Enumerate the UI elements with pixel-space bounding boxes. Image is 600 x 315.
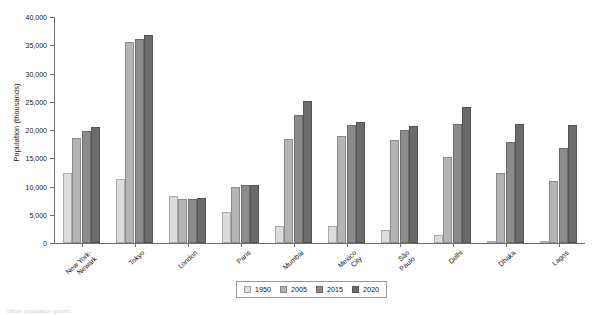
legend-swatch-icon [352, 286, 359, 293]
legend-label: 2005 [291, 285, 307, 294]
bar [462, 107, 471, 243]
chart-legend: 1950200520152020 [236, 281, 387, 298]
bar [356, 122, 365, 243]
bar-group [169, 17, 207, 243]
bar-group [222, 17, 260, 243]
x-tick-mark [559, 243, 560, 247]
bar [231, 187, 240, 243]
bar [294, 115, 303, 243]
bar [275, 226, 284, 243]
bar [568, 125, 577, 243]
bar [443, 157, 452, 243]
bar [82, 131, 91, 243]
legend-label: 2015 [327, 285, 343, 294]
bar-groups [55, 17, 585, 243]
x-tick-mark [188, 243, 189, 247]
y-tick-label: 5,000 [1, 211, 47, 218]
bar [337, 136, 346, 243]
bar [559, 148, 568, 243]
bar [400, 130, 409, 243]
x-axis-label: MexicoCity [300, 249, 363, 308]
bar [144, 35, 153, 243]
bar [284, 139, 293, 243]
y-axis-title: Population (thousands) [12, 63, 21, 183]
legend-item[interactable]: 2005 [280, 285, 307, 294]
legend-item[interactable]: 1950 [244, 285, 271, 294]
bar-group [328, 17, 366, 243]
bar [409, 126, 418, 243]
bar [116, 179, 125, 243]
legend-item[interactable]: 2020 [352, 285, 379, 294]
y-tick-label: 35,000 [1, 42, 47, 49]
bar [250, 185, 259, 243]
bar-group [540, 17, 578, 243]
x-axis-label: Dhaka [459, 249, 517, 302]
bar [487, 241, 496, 243]
bar [188, 199, 197, 243]
x-tick-mark [506, 243, 507, 247]
y-tick-label: 15,000 [1, 155, 47, 162]
bar [125, 42, 134, 243]
x-tick-mark [135, 243, 136, 247]
y-tick-label: 0 [1, 240, 47, 247]
plot-area: 40,00035,00030,00025,00020,00015,00010,0… [55, 17, 585, 243]
x-axis-label: Delhi [406, 249, 464, 302]
x-tick-mark [453, 243, 454, 247]
y-tick-label: 30,000 [1, 70, 47, 77]
bar-group [381, 17, 419, 243]
bar-group [434, 17, 472, 243]
y-tick-label: 10,000 [1, 183, 47, 190]
y-tick-mark [50, 243, 55, 244]
bar [390, 140, 399, 244]
legend-swatch-icon [316, 286, 323, 293]
x-axis-label: SãoPaulo [353, 249, 416, 308]
bar-chart: Population (thousands) 40,00035,00030,00… [0, 0, 600, 315]
bar [434, 235, 443, 243]
bar [328, 226, 337, 243]
x-axis-label: Tokyo [88, 249, 146, 302]
bar [347, 125, 356, 243]
bar [135, 39, 144, 243]
legend-swatch-icon [280, 286, 287, 293]
x-tick-mark [400, 243, 401, 247]
x-tick-mark [347, 243, 348, 247]
x-tick-mark [294, 243, 295, 247]
legend-label: 1950 [255, 285, 271, 294]
bar [381, 230, 390, 243]
bar [72, 138, 81, 243]
bar-group [116, 17, 154, 243]
bar [178, 199, 187, 243]
bar-group [275, 17, 313, 243]
x-tick-mark [241, 243, 242, 247]
bar-group [63, 17, 101, 243]
bar [506, 142, 515, 243]
legend-label: 2020 [363, 285, 379, 294]
bar [515, 124, 524, 243]
bar [453, 124, 462, 243]
footnote-text: Urban population growth [6, 308, 71, 314]
legend-item[interactable]: 2015 [316, 285, 343, 294]
x-tick-mark [82, 243, 83, 247]
y-tick-label: 40,000 [1, 14, 47, 21]
bar [63, 173, 72, 243]
bar [549, 181, 558, 243]
y-tick-label: 25,000 [1, 98, 47, 105]
bar [241, 185, 250, 243]
x-axis-label: Lagos [512, 249, 570, 302]
bar-group [487, 17, 525, 243]
bar [91, 127, 100, 243]
bar [197, 198, 206, 243]
y-tick-label: 20,000 [1, 127, 47, 134]
bar [496, 173, 505, 244]
legend-swatch-icon [244, 286, 251, 293]
x-axis-label: New York-Newark [35, 249, 98, 308]
bar [222, 212, 231, 243]
bar [540, 241, 549, 243]
bar [303, 101, 312, 243]
x-axis-label: London [141, 249, 199, 302]
bar [169, 196, 178, 243]
